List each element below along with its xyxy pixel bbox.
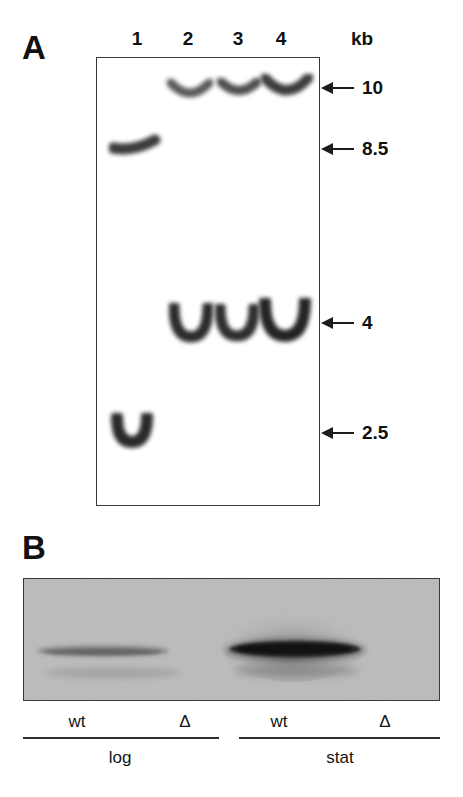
group-rule-stat bbox=[239, 737, 440, 739]
group-label-stat: stat bbox=[290, 748, 390, 768]
blot-lane-label-log-wt: wt bbox=[47, 712, 107, 732]
panel-b-letter: B bbox=[22, 531, 46, 564]
blot-lane-label-stat-wt: wt bbox=[249, 712, 309, 732]
figure-root: A 1 2 3 4 kb bbox=[0, 0, 463, 797]
blot-lane-label-stat-delta: Δ bbox=[355, 712, 415, 732]
blot-lane-label-log-delta: Δ bbox=[155, 712, 215, 732]
band-log-wt-smear bbox=[38, 661, 188, 685]
group-rule-log bbox=[23, 737, 219, 739]
blot-panel-b-box bbox=[23, 578, 440, 701]
band-stat-wt-tail bbox=[224, 659, 374, 687]
group-label-log: log bbox=[70, 748, 170, 768]
panel-b: B bbox=[0, 0, 463, 797]
